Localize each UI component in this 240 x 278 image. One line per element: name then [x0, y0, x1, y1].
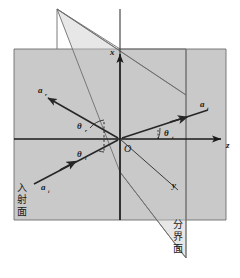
plane-of-incidence-label: 入 射 面: [17, 182, 27, 217]
interface-plane-char-1: 界: [173, 231, 183, 242]
origin-label: O: [124, 143, 131, 154]
interface-plane-label: 分 界 面: [173, 219, 183, 254]
reflection-angle-symbol: θ: [77, 121, 82, 131]
interface-plane-char-0: 分: [173, 219, 183, 230]
incident-ray-symbol: a: [41, 182, 46, 192]
plane-of-incidence-char-2: 面: [17, 206, 27, 217]
reflected-ray-symbol: a: [38, 85, 43, 95]
transmitted-ray-symbol: a: [200, 99, 205, 109]
interface-plane-char-2: 面: [173, 243, 183, 254]
z-axis-label: z: [225, 140, 230, 150]
physics-diagram: x z y O θ r θ i θ t: [0, 0, 240, 278]
incidence-angle-symbol: θ: [77, 149, 82, 159]
plane-of-incidence-char-1: 射: [17, 194, 27, 205]
figure-root: x z y O θ r θ i θ t: [0, 0, 240, 278]
reflection-angle-subscript: r: [85, 128, 87, 133]
reflected-ray-subscript: r: [45, 92, 47, 97]
x-axis-label: x: [109, 47, 115, 57]
transmission-angle-symbol: θ: [164, 128, 169, 138]
plane-of-incidence-char-0: 入: [17, 182, 27, 193]
